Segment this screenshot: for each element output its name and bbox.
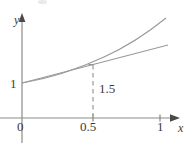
- annotation-label-1_5: 1.5: [99, 82, 115, 95]
- exponential-curve: [22, 18, 166, 83]
- math-figure: [0, 0, 196, 143]
- x-tick-label-1: 1: [157, 120, 164, 133]
- straight-line: [22, 45, 168, 83]
- origin-label: 0: [17, 120, 24, 133]
- x-axis-label: x: [178, 122, 183, 134]
- y-tick-label-1: 1: [10, 77, 17, 90]
- y-axis-label: y: [14, 14, 19, 26]
- y-axis-arrowhead: [19, 13, 26, 22]
- x-tick-label-0_5: 0.5: [80, 120, 96, 133]
